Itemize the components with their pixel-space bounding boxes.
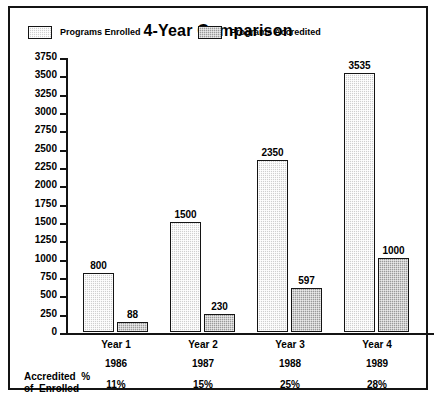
bar-value-label: 1500 — [174, 209, 196, 220]
bar-value-label: 1000 — [382, 245, 404, 256]
y-tick-label: 2500 — [35, 143, 57, 154]
ratio-label-line2: of Enrolled — [24, 383, 90, 395]
category-ratio: 28% — [337, 379, 417, 390]
plot-area: 3750 3500 3250 3000 2750 2500 2250 2000 … — [66, 58, 426, 333]
category-year: 1989 — [337, 358, 417, 369]
bar-value-label: 230 — [211, 301, 228, 312]
category-name: Year 4 — [337, 339, 417, 350]
y-tick-label: 3250 — [35, 88, 57, 99]
legend-item-programs-accredited: Programs Accredited — [198, 24, 321, 40]
bar-year3-enrolled: 2350 — [257, 160, 288, 332]
y-tick-label: 1250 — [35, 234, 57, 245]
category-axis-labels: Year 1 1986 11% Year 2 1987 15% Year 3 1… — [66, 339, 428, 391]
legend-label-enrolled: Programs Enrolled — [60, 27, 141, 37]
y-tick-label: 2750 — [35, 124, 57, 135]
y-tick-label: 2250 — [35, 161, 57, 172]
y-tick-label: 0 — [51, 326, 57, 337]
bar-year1-accredited: 88 — [117, 322, 148, 332]
y-tick-label: 250 — [40, 308, 57, 319]
legend-swatch-accredited-icon — [198, 26, 222, 39]
legend-label-accredited: Programs Accredited — [230, 27, 321, 37]
y-tick-label: 750 — [40, 271, 57, 282]
bar-value-label: 3535 — [348, 60, 370, 71]
category-year: 1987 — [163, 358, 243, 369]
legend-swatch-enrolled-icon — [28, 26, 52, 39]
bar-year2-enrolled: 1500 — [170, 222, 201, 332]
y-tick-label: 1500 — [35, 216, 57, 227]
y-tick-label: 500 — [40, 289, 57, 300]
bar-year4-accredited: 1000 — [378, 258, 409, 332]
y-tick-label: 2000 — [35, 179, 57, 190]
category-year: 1988 — [250, 358, 330, 369]
bar-value-label: 597 — [298, 275, 315, 286]
chart-legend: Programs Enrolled Programs Accredited — [28, 24, 358, 42]
x-axis-line — [66, 333, 434, 335]
bar-year3-accredited: 597 — [291, 288, 322, 332]
chart-frame: 4-Year Comparison Programs Enrolled Prog… — [8, 6, 428, 390]
y-tick-label: 3750 — [35, 51, 57, 62]
ratio-label-line1: Accredited % — [24, 371, 90, 383]
y-tick-label: 3500 — [35, 69, 57, 80]
y-tick-label: 3000 — [35, 106, 57, 117]
bar-value-label: 88 — [127, 309, 138, 320]
category-year: 1986 — [76, 358, 156, 369]
category-ratio: 25% — [250, 379, 330, 390]
y-tick-label: 1750 — [35, 198, 57, 209]
bar-year4-enrolled: 3535 — [344, 73, 375, 332]
bar-value-label: 800 — [90, 260, 107, 271]
bar-year2-accredited: 230 — [204, 314, 235, 332]
y-tick-label: 1000 — [35, 253, 57, 264]
accredited-ratio-row-label: Accredited % of Enrolled — [24, 371, 90, 395]
category-ratio: 15% — [163, 379, 243, 390]
legend-item-programs-enrolled: Programs Enrolled — [28, 24, 141, 40]
category-name: Year 1 — [76, 339, 156, 350]
y-axis-line — [66, 58, 68, 334]
bar-year1-enrolled: 800 — [83, 273, 114, 332]
category-name: Year 3 — [250, 339, 330, 350]
category-name: Year 2 — [163, 339, 243, 350]
bar-value-label: 2350 — [261, 147, 283, 158]
